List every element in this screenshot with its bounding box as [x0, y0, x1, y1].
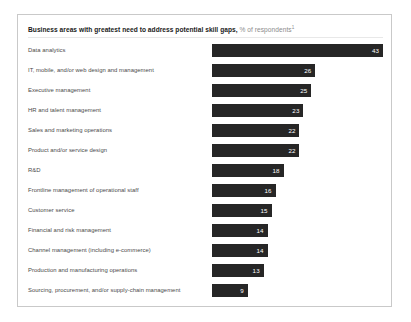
bar-row: Data analytics43: [18, 40, 391, 60]
bar-track: 25: [212, 80, 381, 100]
bar-value-label: 23: [292, 104, 299, 117]
bar-row: Frontline management of operational staf…: [18, 180, 391, 200]
bar-chart-plot-area: Data analytics43IT, mobile, and/or web d…: [18, 40, 391, 302]
bar-value-label: 22: [288, 124, 295, 137]
bar-row: Executive management25: [18, 80, 391, 100]
bar-track: 16: [212, 180, 381, 200]
bar-category-label: Sales and marketing operations: [28, 120, 208, 140]
bar-row: R&D18: [18, 160, 391, 180]
bar-category-label: Production and manufacturing operations: [28, 260, 208, 280]
bar-value-label: 26: [304, 64, 311, 77]
bar-value-label: 18: [272, 164, 279, 177]
bar-category-label: Executive management: [28, 80, 208, 100]
bar-category-label: HR and talent management: [28, 100, 208, 120]
bar-category-label: Frontline management of operational staf…: [28, 180, 208, 200]
bar-track: 22: [212, 120, 381, 140]
bar-value-label: 16: [265, 184, 272, 197]
bar-category-label: Product and/or service design: [28, 140, 208, 160]
bar-category-label: IT, mobile, and/or web design and manage…: [28, 60, 208, 80]
bar-value-label: 15: [261, 204, 268, 217]
chart-title: Business areas with greatest need to add…: [28, 23, 383, 34]
bar-track: 9: [212, 280, 381, 300]
bar-value-label: 13: [253, 264, 260, 277]
bar-row: Production and manufacturing operations1…: [18, 260, 391, 280]
bar: 22: [212, 124, 299, 137]
bar-track: 18: [212, 160, 381, 180]
bar-track: 15: [212, 200, 381, 220]
bar: 15: [212, 204, 272, 217]
bar-row: Sales and marketing operations22: [18, 120, 391, 140]
bar-track: 14: [212, 240, 381, 260]
title-divider: [28, 37, 383, 38]
bar-category-label: Financial and risk management: [28, 220, 208, 240]
bar-row: HR and talent management23: [18, 100, 391, 120]
bar-track: 23: [212, 100, 381, 120]
bar-value-label: 25: [300, 84, 307, 97]
bar-row: Financial and risk management14: [18, 220, 391, 240]
bar-track: 43: [212, 40, 381, 60]
bar-category-label: R&D: [28, 160, 208, 180]
bar-track: 13: [212, 260, 381, 280]
exhibit-frame: Business areas with greatest need to add…: [17, 14, 392, 307]
bar-track: 14: [212, 220, 381, 240]
bar: 25: [212, 84, 311, 97]
bar-row: Sourcing, procurement, and/or supply-cha…: [18, 280, 391, 300]
bar-category-label: Customer service: [28, 200, 208, 220]
bar-value-label: 22: [288, 144, 295, 157]
bar: 18: [212, 164, 284, 177]
chart-title-subtitle: % of respondents: [240, 26, 292, 33]
bar-row: IT, mobile, and/or web design and manage…: [18, 60, 391, 80]
footnote-marker: 1: [292, 25, 295, 30]
bar-row: Channel management (including e-commerce…: [18, 240, 391, 260]
bar-value-label: 14: [257, 224, 264, 237]
bar: 26: [212, 64, 315, 77]
bar-value-label: 14: [257, 244, 264, 257]
bar-value-label: 43: [372, 44, 379, 57]
bar-category-label: Data analytics: [28, 40, 208, 60]
bar: 43: [212, 44, 383, 57]
bar-track: 22: [212, 140, 381, 160]
bar: 14: [212, 224, 268, 237]
bar: 23: [212, 104, 303, 117]
bar-category-label: Sourcing, procurement, and/or supply-cha…: [28, 280, 208, 300]
bar: 22: [212, 144, 299, 157]
bar: 13: [212, 264, 264, 277]
bar: 14: [212, 244, 268, 257]
bar-value-label: 9: [240, 284, 244, 297]
bar-track: 26: [212, 60, 381, 80]
bar-row: Product and/or service design22: [18, 140, 391, 160]
bar: 16: [212, 184, 276, 197]
bar: 9: [212, 284, 248, 297]
bar-row: Customer service15: [18, 200, 391, 220]
chart-title-main: Business areas with greatest need to add…: [28, 26, 238, 33]
bar-category-label: Channel management (including e-commerce…: [28, 240, 208, 260]
